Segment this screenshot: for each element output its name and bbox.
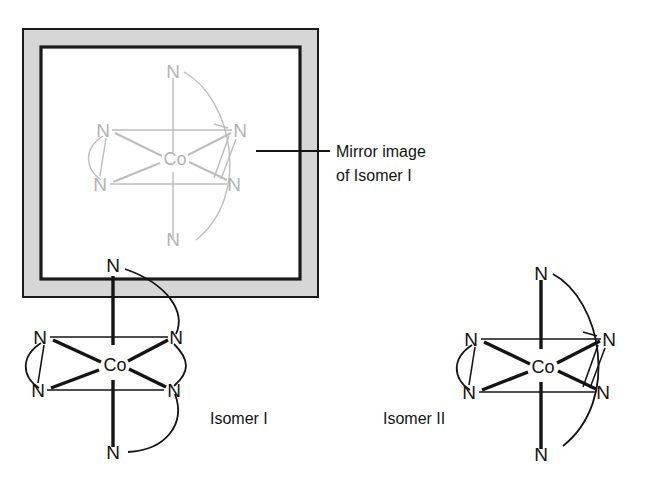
bond-co-lower-left <box>482 372 528 390</box>
atom-label-n-lower-right: N <box>227 174 241 195</box>
atom-label-n-upper-right: N <box>602 329 616 350</box>
atom-label-n-top: N <box>166 61 180 82</box>
atom-label-co-center: Co <box>531 357 554 377</box>
caption-isomer-ii: Isomer II <box>383 410 445 427</box>
atom-label-n-bottom: N <box>166 229 180 250</box>
atom-label-n-lower-left: N <box>31 380 45 401</box>
chelate-backbone-right-a <box>583 345 598 387</box>
figure-canvas: N N N N N N Co Mirror image of Isomer I … <box>0 0 662 496</box>
atom-label-n-top: N <box>534 263 548 284</box>
chelate-backbone-outer-bottom <box>128 394 178 452</box>
structure-isomer-ii: N N N N N N Co <box>457 263 616 465</box>
atom-label-n-upper-left: N <box>33 327 47 348</box>
chelate-strut-left <box>38 345 44 383</box>
bond-co-lower-left <box>51 370 99 388</box>
bond-co-upper-left <box>53 340 101 362</box>
bond-co-upper-left <box>484 342 530 364</box>
atom-label-co-center: Co <box>163 149 186 169</box>
atom-label-n-upper-left: N <box>464 329 478 350</box>
atom-label-n-upper-left: N <box>96 120 110 141</box>
atom-label-n-lower-left: N <box>462 382 476 403</box>
atom-label-n-bottom: N <box>106 442 120 463</box>
atom-label-n-top: N <box>106 255 120 276</box>
caption-isomer-i: Isomer I <box>210 410 268 427</box>
chelate-strut-left <box>469 347 475 385</box>
atom-label-co-center: Co <box>103 355 126 375</box>
annotation-line-1: Mirror image <box>336 143 426 160</box>
atom-label-n-bottom: N <box>534 444 548 465</box>
annotation-line-2: of Isomer I <box>336 167 412 184</box>
atom-label-n-upper-right: N <box>233 120 247 141</box>
bond-co-lower-right <box>129 369 166 387</box>
atom-label-n-lower-left: N <box>93 174 107 195</box>
atom-label-n-lower-right: N <box>167 380 181 401</box>
bond-co-upper-right <box>128 340 168 361</box>
atom-label-n-upper-right: N <box>169 327 183 348</box>
atom-label-n-lower-right: N <box>596 382 610 403</box>
